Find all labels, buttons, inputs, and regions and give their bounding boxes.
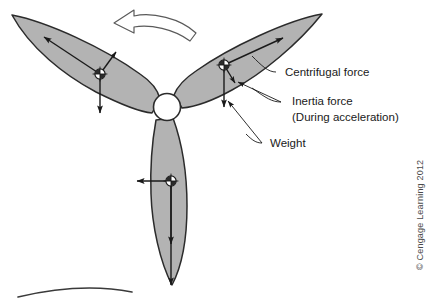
propeller-blades [12, 14, 322, 285]
page-edge-curve [18, 288, 132, 297]
label-centrifugal-force: Centrifugal force [285, 66, 369, 78]
label-inertia-force: Inertia force [292, 95, 353, 107]
rotation-direction-arrow [114, 10, 196, 41]
copyright-notice: © Cengage Learning 2012 [415, 160, 425, 270]
propeller-force-diagram: Centrifugal force Inertia force (During … [0, 0, 434, 308]
leader-line-inertia-arrow [238, 82, 281, 102]
diagram-canvas: Centrifugal force Inertia force (During … [0, 0, 434, 308]
right-blade [174, 14, 322, 108]
label-weight: Weight [270, 137, 306, 149]
leader-line-weight [246, 134, 262, 143]
leader-line-weight-arrow [228, 101, 262, 143]
label-inertia-force-note: (During acceleration) [292, 111, 399, 123]
propeller-hub [154, 94, 181, 121]
bottom-blade [151, 118, 187, 285]
